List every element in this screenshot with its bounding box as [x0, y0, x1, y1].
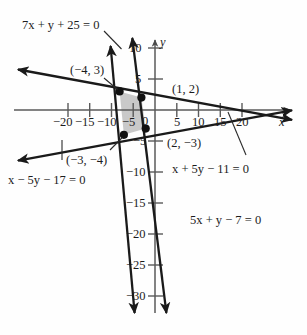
y-tick-label-10: 10	[129, 42, 142, 55]
leader-line-7x-equation	[104, 31, 122, 49]
y-tick-label-5: 5	[135, 73, 141, 86]
equation-label-x-plus-5y-minus-11: x + 5y − 11 = 0	[172, 163, 249, 176]
point-label-2-neg3: (2, −3)	[167, 137, 201, 150]
x-tick-label-20: 20	[236, 116, 249, 129]
point-label-neg3-neg4: (−3, −4)	[66, 154, 107, 167]
x-axis-name: x	[279, 116, 285, 129]
origin-label: 0	[142, 115, 148, 128]
y-tick-label-neg5: −5	[133, 135, 146, 148]
x-tick-label-neg15: −15	[75, 116, 95, 129]
y-axis-name: y	[160, 36, 166, 49]
y-tick-label-neg20: −20	[126, 228, 146, 241]
equation-label-5x-plus-y-minus-7: 5x + y − 7 = 0	[190, 214, 261, 227]
point-label-1-2: (1, 2)	[172, 83, 199, 96]
y-tick-label-neg10: −10	[126, 166, 146, 179]
y-tick-label-neg15: −15	[126, 197, 146, 210]
y-tick-label-neg25: −25	[126, 259, 146, 272]
vertex-dot-neg3-neg4	[120, 131, 128, 139]
x-tick-label-15: 15	[214, 116, 227, 129]
x-tick-label-10: 10	[192, 116, 205, 129]
coordinate-graph-figure: 7x + y + 25 = 0 x − 5y − 17 = 0 x + 5y −…	[0, 0, 307, 335]
point-label-neg4-3: (−4, 3)	[70, 64, 104, 77]
x-tick-label-5: 5	[174, 116, 180, 129]
vertex-dot-1-2	[137, 94, 145, 102]
graph-canvas	[0, 0, 307, 335]
x-tick-label-neg5: −5	[122, 116, 135, 129]
x-tick-label-neg10: −10	[97, 116, 117, 129]
y-tick-label-neg30: −30	[126, 290, 146, 303]
equation-label-x-minus-5y-minus-17: x − 5y − 17 = 0	[8, 174, 85, 187]
equation-label-7x-plus-y-plus-25: 7x + y + 25 = 0	[22, 19, 99, 32]
leader-line-neg4-3	[104, 78, 118, 90]
x-tick-label-neg20: −20	[53, 116, 73, 129]
